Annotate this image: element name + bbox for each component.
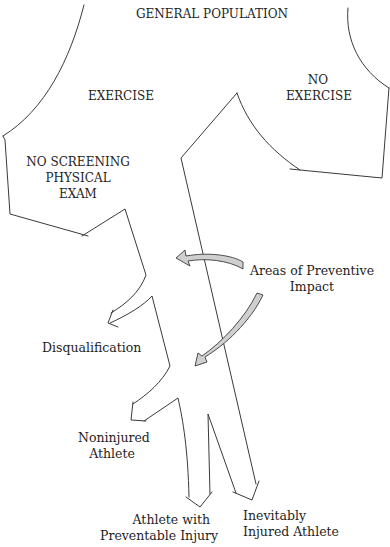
label-inevitable-line2: Injured Athlete [243,524,339,540]
preventive-impact-arrow-lower [195,293,263,366]
no-exercise-left-boundary [237,93,300,170]
population-right-boundary [348,8,389,88]
population-left-boundary [3,5,84,136]
label-areas-of-preventive-impact: Areas of Preventive Impact [246,263,378,295]
label-no-exercise-line1: NO [286,72,350,88]
label-no-exercise: NO EXERCISE [286,72,350,104]
screening-notch [82,209,146,313]
label-inevitably-injured-athlete: Inevitably Injured Athlete [243,508,339,540]
preventable-injury-inner-edge [208,414,236,494]
preventive-impact-arrow-upper [176,250,243,269]
label-no-screening-physical-exam: NO SCREENING PHYSICAL EXAM [26,154,130,202]
preventable-injury-arrowhead [186,492,212,507]
label-exercise: EXERCISE [88,88,154,104]
label-no-screening-line1: NO SCREENING [26,154,130,170]
label-no-exercise-line2: EXERCISE [286,88,350,104]
label-preventable-line2: Preventable Injury [100,528,210,544]
label-preventable-line1: Athlete with [100,512,210,528]
label-noninjured-line2: Athlete [78,446,146,462]
label-impact-line1: Areas of Preventive [246,263,378,279]
inevitable-injury-arrowhead [233,481,259,500]
label-noninjured-line1: Noninjured [78,430,146,446]
label-noninjured-athlete: Noninjured Athlete [78,430,146,462]
label-no-screening-line3: EXAM [26,186,130,202]
noninjured-inner-edge [144,398,189,497]
label-no-screening-line2: PHYSICAL [26,170,130,186]
label-inevitable-line1: Inevitably [243,508,339,524]
title-general-population: GENERAL POPULATION [136,6,288,22]
exercise-right-boundary [181,93,256,484]
label-athlete-preventable-injury: Athlete with Preventable Injury [100,512,210,544]
disqualification-arrowhead [108,310,118,327]
label-impact-line2: Impact [246,279,378,295]
label-disqualification: Disqualification [42,340,141,356]
noninjured-arrowhead [131,402,146,421]
